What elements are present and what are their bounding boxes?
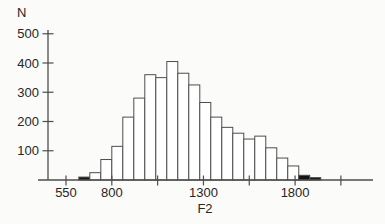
x-axis-title: F2 [190, 202, 220, 216]
histogram-bar [266, 148, 277, 180]
x-tick-label: 550 [55, 185, 77, 200]
histogram-bar [233, 133, 244, 180]
y-tick-label: 100 [17, 143, 39, 158]
y-tick-label: 200 [17, 114, 39, 129]
histogram-plot: 10020030040050055080013001800 [0, 0, 385, 224]
histogram-bar [134, 98, 145, 180]
y-tick-label: 500 [17, 26, 39, 41]
histogram-bar [255, 136, 266, 180]
histogram-bar [90, 173, 101, 180]
histogram-bar [211, 117, 222, 180]
x-tick-label: 1800 [281, 185, 310, 200]
f2-histogram-figure: 10020030040050055080013001800 N F2 [0, 0, 385, 224]
histogram-bar [189, 85, 200, 180]
histogram-bar [123, 117, 134, 180]
histogram-bar [167, 62, 178, 180]
y-axis-title: N [17, 6, 26, 20]
histogram-bar [200, 102, 211, 180]
histogram-bar [145, 75, 156, 180]
histogram-bar [288, 166, 299, 180]
y-tick-label: 400 [17, 56, 39, 71]
histogram-bar [156, 78, 167, 180]
histogram-bar [101, 160, 112, 180]
histogram-bar-filled [299, 175, 310, 180]
histogram-bar [244, 139, 255, 180]
histogram-bar [178, 73, 189, 180]
histogram-bar [112, 146, 123, 180]
x-tick-label: 800 [101, 185, 123, 200]
histogram-bar [277, 158, 288, 180]
x-tick-label: 1300 [189, 185, 218, 200]
y-tick-label: 300 [17, 85, 39, 100]
histogram-bar [222, 127, 233, 180]
